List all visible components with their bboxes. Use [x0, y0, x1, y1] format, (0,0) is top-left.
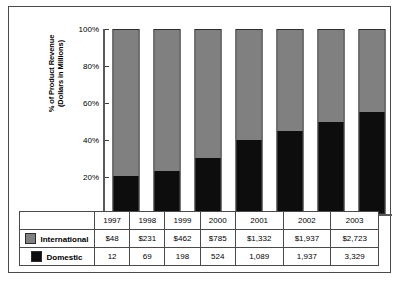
- table-value-cell: $462: [165, 230, 200, 248]
- y-axis-tick-label: 20%: [83, 173, 99, 182]
- bar-column: [351, 13, 392, 215]
- bar-segment-domestic: [113, 176, 138, 213]
- y-axis-tick-label: 40%: [83, 136, 99, 145]
- stacked-bar: [358, 29, 385, 214]
- bar-segment-international: [236, 30, 261, 140]
- domestic-swatch-icon: [31, 251, 42, 262]
- stacked-bar: [235, 29, 262, 214]
- bar-segment-domestic: [359, 112, 384, 213]
- bar-column: [146, 13, 187, 215]
- bar-column: [228, 13, 269, 215]
- table-year-header: 1997: [95, 212, 130, 230]
- table-row: 1997199819992000200120022003: [20, 212, 379, 230]
- table-value-cell: 1,089: [235, 248, 283, 266]
- legend-label: Domestic: [46, 253, 82, 262]
- table-year-header: 2003: [331, 212, 379, 230]
- table-value-cell: 69: [130, 248, 165, 266]
- bar-segment-international: [277, 30, 302, 131]
- bar-segment-domestic: [318, 122, 343, 214]
- bar-segment-international: [113, 30, 138, 176]
- bar-segment-international: [318, 30, 343, 122]
- table-year-header: 1999: [165, 212, 200, 230]
- bar-column: [310, 13, 351, 215]
- legend-entry[interactable]: International: [20, 230, 95, 248]
- y-axis-tick-label: 80%: [83, 62, 99, 71]
- table-value-cell: $48: [95, 230, 130, 248]
- table-year-header: 2002: [283, 212, 331, 230]
- legend-label: International: [40, 235, 88, 244]
- stacked-bar: [112, 29, 139, 214]
- chart-frame: % of Product Revenue (Dollars in Million…: [8, 6, 391, 273]
- bar-series-container: [105, 13, 392, 215]
- y-axis-tick-labels: 0%20%40%60%80%100%: [67, 13, 103, 213]
- table-row: International$48$231$462$785$1,332$1,937…: [20, 230, 379, 248]
- table-value-cell: 524: [200, 248, 235, 266]
- table-value-cell: 1,937: [283, 248, 331, 266]
- stacked-bar: [194, 29, 221, 214]
- table-value-cell: $231: [130, 230, 165, 248]
- bar-segment-domestic: [236, 140, 261, 213]
- table-year-header: 1998: [130, 212, 165, 230]
- y-axis-tick-label: 60%: [83, 99, 99, 108]
- legend-entry[interactable]: Domestic: [20, 248, 95, 266]
- international-swatch-icon: [25, 233, 36, 244]
- table-value-cell: $1,937: [283, 230, 331, 248]
- bar-segment-domestic: [154, 171, 179, 213]
- stacked-bar: [153, 29, 180, 214]
- table-value-cell: $785: [200, 230, 235, 248]
- bar-segment-domestic: [195, 158, 220, 213]
- bar-column: [105, 13, 146, 215]
- y-axis-title: % of Product Revenue (Dollars in Million…: [48, 19, 65, 129]
- table-corner-cell: [20, 212, 95, 230]
- bar-segment-domestic: [277, 131, 302, 213]
- table-value-cell: $2,723: [331, 230, 379, 248]
- table-year-header: 2001: [235, 212, 283, 230]
- chart-plot-area: % of Product Revenue (Dollars in Million…: [19, 13, 379, 213]
- table-year-header: 2000: [200, 212, 235, 230]
- bar-column: [269, 13, 310, 215]
- table-value-cell: 12: [95, 248, 130, 266]
- table-value-cell: 3,329: [331, 248, 379, 266]
- table-value-cell: $1,332: [235, 230, 283, 248]
- bar-segment-international: [154, 30, 179, 171]
- y-axis-tick-label: 100%: [79, 25, 99, 34]
- bar-segment-international: [195, 30, 220, 158]
- bar-segment-international: [359, 30, 384, 112]
- stacked-bar: [317, 29, 344, 214]
- bar-column: [187, 13, 228, 215]
- data-table: 1997199819992000200120022003Internationa…: [19, 211, 379, 266]
- table-value-cell: 198: [165, 248, 200, 266]
- table-row: Domestic12691985241,0891,9373,329: [20, 248, 379, 266]
- stacked-bar: [276, 29, 303, 214]
